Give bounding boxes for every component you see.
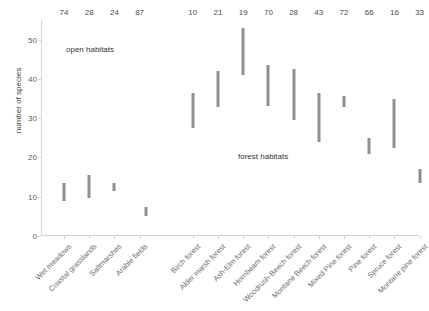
x-tick-mark: [114, 236, 115, 239]
range-bar: [113, 183, 116, 191]
x-tick-mark: [89, 236, 90, 239]
range-bar: [393, 99, 396, 148]
sample-count-label: 21: [214, 8, 223, 17]
x-tick-mark: [369, 236, 370, 239]
x-tick-mark: [218, 236, 219, 239]
x-tick-mark: [268, 236, 269, 239]
range-bar: [242, 28, 245, 75]
x-tick-mark: [294, 236, 295, 239]
group-annotation-forest: forest habitats: [238, 152, 288, 161]
sample-count-label: 87: [135, 8, 144, 17]
range-bar: [63, 183, 66, 200]
x-tick-mark: [394, 236, 395, 239]
y-tick-label: 50: [28, 35, 37, 44]
y-tick-mark: [38, 197, 41, 198]
y-tick-label: 20: [28, 153, 37, 162]
sample-count-label: 28: [289, 8, 298, 17]
sample-count-label: 19: [239, 8, 248, 17]
sample-count-label: 74: [60, 8, 69, 17]
y-axis-title: number of species: [14, 41, 23, 161]
y-tick-mark: [38, 40, 41, 41]
y-tick-mark: [38, 79, 41, 80]
range-bar: [292, 69, 295, 120]
x-tick-mark: [64, 236, 65, 239]
group-annotation-open: open habitats: [66, 45, 114, 54]
sample-count-label: 43: [314, 8, 323, 17]
x-tick-mark: [243, 236, 244, 239]
range-bar: [343, 96, 346, 107]
y-tick-mark: [38, 157, 41, 158]
range-bar: [191, 93, 194, 128]
sample-count-label: 70: [264, 8, 273, 17]
x-tick-mark: [193, 236, 194, 239]
range-bar: [88, 175, 91, 197]
range-bar: [217, 71, 220, 108]
y-axis-line: [41, 20, 42, 236]
sample-count-label: 33: [415, 8, 424, 17]
x-tick-mark: [140, 236, 141, 239]
range-bar: [267, 65, 270, 106]
y-tick-label: 40: [28, 74, 37, 83]
range-bar: [368, 138, 371, 154]
x-axis-line: [41, 235, 419, 236]
range-bar: [418, 169, 421, 183]
sample-count-label: 28: [85, 8, 94, 17]
x-tick-mark: [420, 236, 421, 239]
x-tick-mark: [319, 236, 320, 239]
x-category-label: Montane pine forest: [376, 242, 429, 295]
range-bar: [144, 207, 147, 216]
sample-count-label: 24: [110, 8, 119, 17]
y-tick-mark: [38, 236, 41, 237]
sample-count-label: 10: [188, 8, 197, 17]
y-tick-label: 10: [28, 192, 37, 201]
sample-count-label: 16: [390, 8, 399, 17]
x-tick-mark: [344, 236, 345, 239]
sample-count-label: 72: [340, 8, 349, 17]
y-tick-label: 0: [33, 232, 37, 241]
y-tick-mark: [38, 118, 41, 119]
y-tick-label: 30: [28, 114, 37, 123]
sample-count-label: 66: [365, 8, 374, 17]
range-bar: [317, 93, 320, 142]
